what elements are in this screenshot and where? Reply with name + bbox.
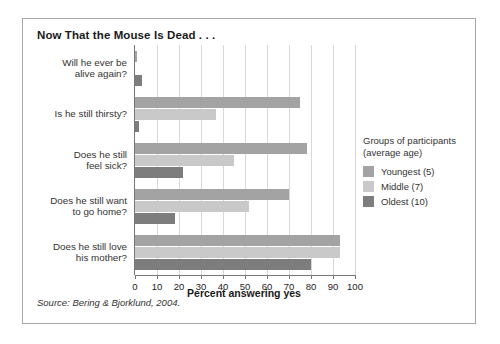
legend-swatch-icon xyxy=(363,181,374,192)
legend-swatch-icon xyxy=(363,166,374,177)
plot-area: 0102030405060708090100 xyxy=(134,45,355,275)
bar xyxy=(135,51,137,62)
bar xyxy=(135,213,175,224)
x-axis-tick xyxy=(179,275,180,279)
x-axis-tick xyxy=(311,275,312,279)
x-axis-tick xyxy=(157,275,158,279)
category-label: Does he still want to go home? xyxy=(23,195,127,218)
bar xyxy=(135,247,340,258)
legend-swatch-icon xyxy=(363,196,374,207)
legend-item: Oldest (10) xyxy=(363,196,471,207)
x-axis-tick xyxy=(201,275,202,279)
legend-label: Oldest (10) xyxy=(381,196,428,207)
bar xyxy=(135,97,300,108)
x-axis-tick xyxy=(245,275,246,279)
bar xyxy=(135,121,139,132)
legend-label: Middle (7) xyxy=(381,181,423,192)
x-axis-tick xyxy=(289,275,290,279)
bar xyxy=(135,167,183,178)
legend-label: Youngest (5) xyxy=(381,166,435,177)
x-axis-tick xyxy=(355,275,356,279)
x-axis-tick xyxy=(333,275,334,279)
category-label: Does he still feel sick? xyxy=(23,149,127,172)
x-axis-tick xyxy=(267,275,268,279)
legend-entries: Youngest (5)Middle (7)Oldest (10) xyxy=(363,166,471,207)
legend-item: Youngest (5) xyxy=(363,166,471,177)
legend: Groups of participants (average age) You… xyxy=(363,135,471,211)
bar xyxy=(135,109,216,120)
chart-figure: Now That the Mouse Is Dead . . . 0102030… xyxy=(22,18,476,324)
category-label: Does he still love his mother? xyxy=(23,241,127,264)
bar xyxy=(135,75,142,86)
gridline xyxy=(355,45,356,275)
bar xyxy=(135,235,340,246)
page-title: Now That the Mouse Is Dead . . . xyxy=(37,29,215,41)
bar xyxy=(135,143,307,154)
bar xyxy=(135,201,249,212)
bar xyxy=(135,259,311,270)
legend-item: Middle (7) xyxy=(363,181,471,192)
legend-title: Groups of participants (average age) xyxy=(363,135,471,158)
x-axis-tick xyxy=(223,275,224,279)
category-label: Will he ever be alive again? xyxy=(23,57,127,80)
category-label: Is he still thirsty? xyxy=(23,108,127,120)
bar xyxy=(135,155,234,166)
source-note: Source: Bering & Bjorklund, 2004. xyxy=(37,297,180,308)
x-axis-tick xyxy=(135,275,136,279)
bar xyxy=(135,189,289,200)
